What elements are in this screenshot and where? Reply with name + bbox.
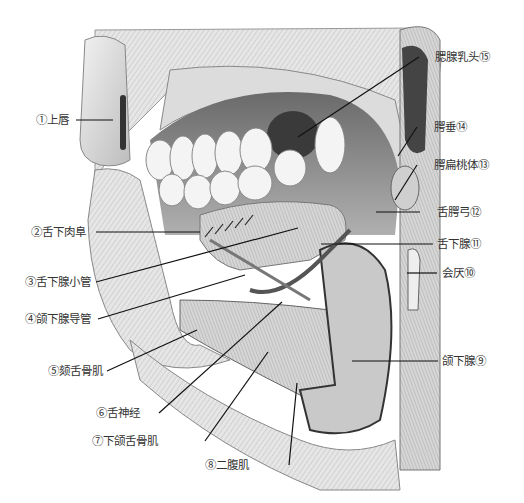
label-digastric-muscle: ⑧二腹肌 [205, 458, 249, 472]
label-sublingual-ducts: ③舌下腺小管 [25, 275, 91, 289]
label-epiglottis: 会厌⑩ [442, 266, 475, 280]
label-palatoglossal-arch: 舌腭弓⑫ [437, 205, 481, 219]
label-uvula: 腭垂⑭ [434, 120, 467, 134]
tonsil-shape [391, 166, 419, 210]
label-sublingual-caruncle: ②舌下肉阜 [31, 225, 86, 239]
anatomy-figure: ①上唇 ②舌下肉阜 ③舌下腺小管 ④颌下腺导管 ⑤颏舌骨肌 ⑥舌神经 ⑦下颌舌骨… [0, 0, 524, 503]
oral-cavity-illustration [0, 0, 524, 503]
label-upper-lip: ①上唇 [36, 113, 69, 127]
label-parotid-papilla: 腮腺乳头⑮ [435, 50, 490, 64]
label-submandibular-gland: 颌下腺⑨ [442, 354, 486, 368]
label-geniohyoid-muscle: ⑤颏舌骨肌 [48, 364, 103, 378]
label-sublingual-gland: 舌下腺⑪ [437, 237, 481, 251]
uvula-shape [402, 46, 428, 154]
label-submandibular-duct: ④颌下腺导管 [25, 312, 91, 326]
upper-lip-dark-edge [120, 95, 126, 150]
epiglottis-shape [408, 249, 420, 310]
label-lingual-nerve: ⑥舌神经 [96, 406, 140, 420]
label-mylohyoid-muscle: ⑦下颌舌骨肌 [92, 434, 158, 448]
label-palatine-tonsil: 腭扁桃体⑬ [434, 158, 489, 172]
